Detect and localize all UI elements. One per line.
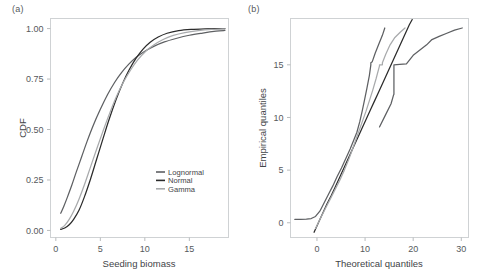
series-line [61,29,225,229]
series-line [61,29,225,230]
y-tick-label: 0 [278,218,283,228]
panel-b-curves [295,20,462,233]
y-tick-label: 0.25 [26,175,44,185]
panel-a: (a) 0510150.000.250.500.751.00 Lognormal… [0,0,244,278]
panel-b-plot: 0102030051015 [244,0,487,278]
panel-a-xaxis-title: Seeding biomass [50,258,228,269]
y-tick-label: 5 [278,165,283,175]
x-tick-label: 0 [314,244,319,254]
panel-b: (b) 0102030051015 Theoretical quantiles … [244,0,487,278]
legend: LognormalNormalGamma [156,168,204,194]
legend-label: Gamma [168,185,196,194]
x-tick-label: 10 [360,244,370,254]
x-tick-label: 5 [98,244,103,254]
panel-a-ticks: 0510150.000.250.500.751.00 [26,24,194,254]
x-tick-label: 30 [456,244,466,254]
panel-a-curves [61,29,225,230]
y-tick-label: 0.00 [26,226,44,236]
x-tick-label: 20 [408,244,418,254]
y-tick-label: 10 [273,113,283,123]
series-line [316,28,405,229]
panel-a-plot: 0510150.000.250.500.751.00 LognormalNorm… [0,0,244,278]
y-tick-label: 0.50 [26,125,44,135]
x-tick-label: 15 [184,244,194,254]
panel-b-xaxis-title: Theoretical quantiles [290,258,468,269]
y-tick-label: 15 [273,60,283,70]
x-tick-label: 10 [140,244,150,254]
series-line [295,28,385,219]
y-tick-label: 1.00 [26,24,44,34]
figure-container: (a) 0510150.000.250.500.751.00 Lognormal… [0,0,487,278]
panel-a-yaxis-title: CDF [17,118,28,138]
panel-b-ticks: 0102030051015 [273,60,466,253]
y-tick-label: 0.75 [26,74,44,84]
x-tick-label: 0 [53,244,58,254]
series-line [61,30,225,213]
panel-b-yaxis-title: Empirical quantiles [257,88,268,168]
series-line [314,20,412,233]
panel-b-frame [291,19,469,238]
